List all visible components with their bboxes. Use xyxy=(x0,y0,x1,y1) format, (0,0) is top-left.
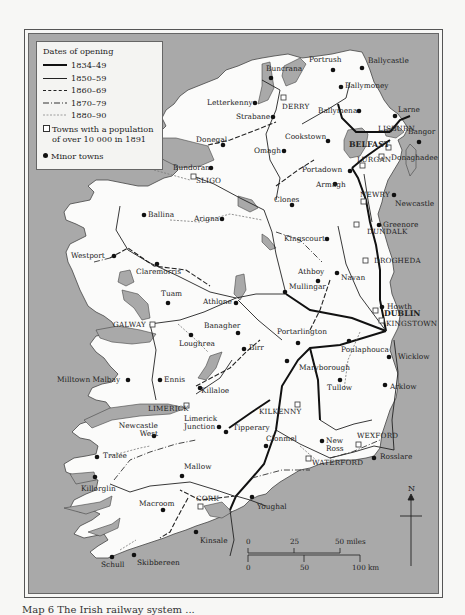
label-tullow: Tullow xyxy=(327,384,352,391)
label-limerick-junction: Limerick Junction xyxy=(184,415,228,431)
label-clones: Clones xyxy=(274,196,299,203)
scale-km-100: 100 km xyxy=(352,563,379,572)
label-banagher: Banagher xyxy=(204,322,240,329)
label-tralee: Tralee xyxy=(103,452,127,459)
label-kingscourt: Kingscourt xyxy=(284,235,325,242)
label-limerick: LIMERICK xyxy=(148,405,189,412)
label-derry: DERRY xyxy=(282,103,309,110)
label-poulaphouca: Poulaphouca xyxy=(341,346,389,353)
label-birr: Birr xyxy=(249,344,264,351)
label-newcastle: Newcastle xyxy=(395,200,434,207)
legend-1834-49: 1834–49 xyxy=(43,59,106,71)
scale-miles-0: 0 xyxy=(246,537,251,546)
label-portadown: Portadown xyxy=(302,166,342,173)
label-rosslare: Rosslare xyxy=(380,453,412,460)
label-donegal: Donegal xyxy=(196,136,227,143)
label-kinsale: Kinsale xyxy=(200,537,228,544)
label-clonmel: Clonmel xyxy=(266,435,297,442)
label-kingstown: KINGSTOWN xyxy=(386,320,437,327)
label-athlone: Athlone xyxy=(203,298,232,305)
label-milltown-malbay: Milltown Malbay xyxy=(57,376,120,383)
label-drogheda: DROGHEDA xyxy=(374,257,421,264)
label-letterkenny: Letterkenny xyxy=(207,99,253,106)
label-buncrana: Buncrana xyxy=(266,65,302,72)
label-killorglin: Killorglin xyxy=(81,485,116,492)
dashed-line-icon xyxy=(43,90,67,91)
dash-dot-line-icon xyxy=(43,101,67,105)
scale-km-50: 50 xyxy=(300,563,309,572)
label-maryborough: Maryborough xyxy=(299,364,350,371)
legend-large-towns: Towns with a population of over 10 000 i… xyxy=(43,124,153,144)
label-newcastle-west: Newcastle West xyxy=(112,422,158,438)
label-ballycastle: Ballycastle xyxy=(368,57,409,64)
label-cork: CORK xyxy=(196,495,219,502)
label-youghal: Youghal xyxy=(257,503,287,510)
label-mallow: Mallow xyxy=(184,463,211,470)
label-macroom: Macroom xyxy=(139,500,175,507)
label-ballina: Ballina xyxy=(148,211,174,218)
label-mullingar: Mullingar xyxy=(289,283,326,290)
scale-bar xyxy=(248,548,360,562)
label-kilkenny: KILKENNY xyxy=(259,408,302,415)
label-ennis: Ennis xyxy=(164,376,185,383)
north-label: N xyxy=(408,484,415,493)
label-cookstown: Cookstown xyxy=(285,133,326,140)
label-schull: Schull xyxy=(101,561,124,568)
label-waterford: WATERFORD xyxy=(312,459,363,466)
label-skibbereen: Skibbereen xyxy=(137,559,180,566)
label-bangor: Bangor xyxy=(408,128,435,135)
legend-title: Dates of opening xyxy=(43,46,113,56)
label-belfast: BELFAST xyxy=(349,141,390,149)
label-wexford: WEXFORD xyxy=(357,432,398,439)
label-lurgan: LURGAN xyxy=(357,156,391,163)
label-tipperary: Tipperary xyxy=(233,424,270,431)
label-athboy: Athboy xyxy=(298,268,324,275)
label-tuam: Tuam xyxy=(161,290,182,297)
label-portrush: Portrush xyxy=(309,56,341,63)
map-caption: Map 6 The Irish railway system ... xyxy=(22,604,195,615)
north-arrow xyxy=(400,494,422,566)
dotted-line-icon xyxy=(43,113,67,117)
label-claremorris: Claremorris xyxy=(136,268,181,275)
label-bundoran: Bundoran xyxy=(173,164,210,171)
scale-km-0: 0 xyxy=(246,563,251,572)
label-newry: NEWRY xyxy=(360,191,390,198)
legend-1850-59: 1850–59 xyxy=(43,72,106,84)
label-dundalk: DUNDALK xyxy=(367,228,408,235)
square-marker-icon xyxy=(43,125,50,132)
label-arigna: Arigna xyxy=(194,215,219,222)
label-navan: Navan xyxy=(341,274,365,281)
label-sligo: SLIGO xyxy=(196,177,221,184)
label-loughrea: Loughrea xyxy=(179,340,215,347)
label-greenore: Greenore xyxy=(383,221,418,228)
label-dublin: DUBLIN xyxy=(384,310,420,318)
legend-1860-69: 1860–69 xyxy=(43,84,106,96)
thin-line-icon xyxy=(43,78,67,79)
label-ballymena: Ballymena xyxy=(318,107,357,114)
label-galway: GALWAY xyxy=(113,321,146,328)
dot-marker-icon xyxy=(43,153,48,158)
legend-minor-towns: Minor towns xyxy=(43,151,103,161)
thick-line-icon xyxy=(43,64,67,66)
label-armagh: Armagh xyxy=(316,181,346,188)
map-legend: Dates of opening 1834–49 1850–59 1860–69… xyxy=(36,41,163,170)
label-omagh: Omagh xyxy=(254,147,281,154)
label-larne: Larne xyxy=(398,106,420,113)
label-strabane: Strabane xyxy=(236,113,270,120)
scale-miles-50: 50 miles xyxy=(335,537,366,546)
label-ballymoney: Ballymoney xyxy=(345,82,389,89)
label-new-ross: New Ross xyxy=(326,437,350,453)
label-howth: Howth xyxy=(387,303,412,310)
scale-miles-25: 25 xyxy=(290,537,299,546)
label-killaloe: Killaloe xyxy=(201,387,229,394)
legend-1880-90: 1880–90 xyxy=(43,109,106,121)
label-arklow: Arklow xyxy=(390,383,417,390)
label-wicklow: Wicklow xyxy=(398,353,430,360)
label-westport: Westport xyxy=(71,252,105,259)
label-donaghadee: Donaghadee xyxy=(391,154,438,161)
legend-1870-79: 1870–79 xyxy=(43,97,106,109)
label-portarlington: Portarlington xyxy=(277,328,327,335)
